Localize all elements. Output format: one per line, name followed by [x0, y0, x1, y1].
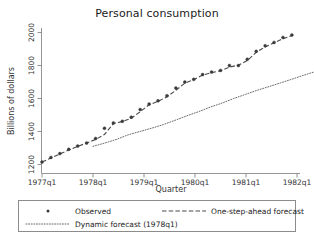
- observed-data-point: [49, 156, 52, 159]
- observed-data-point: [174, 87, 177, 90]
- observed-data-point: [139, 108, 142, 111]
- observed-data-point: [165, 94, 168, 97]
- observed-data-point: [273, 41, 276, 44]
- legend-item-one-step-ahead: One-step-ahead forecast: [161, 206, 304, 216]
- observed-data-point: [157, 99, 160, 102]
- y-tick-label: 1600: [27, 89, 36, 108]
- dotted-line-icon: [25, 219, 71, 229]
- chart-figure: Personal consumption 1200140016001800200…: [0, 0, 314, 240]
- y-tick-label: 1400: [27, 122, 36, 141]
- legend-label-one-step-ahead: One-step-ahead forecast: [211, 207, 304, 216]
- observed-data-point: [281, 36, 284, 39]
- observed-data-point: [183, 81, 186, 84]
- x-tick-label: 1981q1: [232, 178, 261, 187]
- observed-data-point: [219, 69, 222, 72]
- y-tick-label: 1200: [27, 155, 36, 174]
- legend-label-observed: Observed: [75, 207, 111, 216]
- observed-data-point: [130, 116, 133, 119]
- observed-data-point: [121, 120, 124, 123]
- observed-data-point: [112, 121, 115, 124]
- legend-item-observed: Observed: [25, 206, 111, 216]
- observed-data-point: [148, 103, 151, 106]
- observed-data-point: [246, 58, 249, 61]
- one-step-ahead-forecast-line: [42, 35, 292, 162]
- observed-data-point: [41, 161, 44, 164]
- x-tick-label: 1977q1: [28, 178, 57, 187]
- observed-data-point: [228, 64, 231, 67]
- observed-data-point: [192, 78, 195, 81]
- legend-item-dynamic-forecast: Dynamic forecast (1978q1): [25, 219, 178, 229]
- x-axis-title: Quarter: [156, 185, 188, 194]
- observed-data-point: [201, 73, 204, 76]
- plot-area: 12001400160018002000 1977q11978q11979q11…: [0, 0, 314, 200]
- y-tick-label: 2000: [27, 23, 36, 42]
- y-axis-title: Billions of dollars: [7, 67, 16, 135]
- dot-marker-icon: [25, 206, 71, 216]
- observed-data-point: [58, 152, 61, 155]
- observed-data-point: [237, 64, 240, 67]
- chart-legend: Observed One-step-ahead forecast Dynamic…: [18, 200, 296, 232]
- observed-data-point: [255, 50, 258, 53]
- observed-data-point: [85, 142, 88, 145]
- observed-data-point: [290, 33, 293, 36]
- observed-data-point: [76, 145, 79, 148]
- x-tick-label: 1982q1: [283, 178, 312, 187]
- observed-data-point: [264, 44, 267, 47]
- x-tick-label: 1978q1: [79, 178, 108, 187]
- observed-data-point: [210, 71, 213, 74]
- y-tick-label: 1800: [27, 56, 36, 75]
- x-tick-label: 1979q1: [130, 178, 159, 187]
- dashed-line-icon: [161, 206, 207, 216]
- observed-data-point: [67, 148, 70, 151]
- observed-data-point: [103, 127, 106, 130]
- observed-data-point: [94, 137, 97, 140]
- legend-label-dynamic-forecast: Dynamic forecast (1978q1): [75, 220, 178, 229]
- y-axis-ticks: 12001400160018002000: [27, 23, 42, 174]
